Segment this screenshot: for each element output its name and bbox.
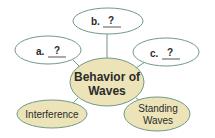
central-node-line2: Waves <box>88 84 126 98</box>
concept-map: b. ? a. ? c. ? Behavior of Waves Interfe… <box>0 0 215 138</box>
node-standing-waves-line2: Waves <box>143 115 173 126</box>
node-c-blank: ? <box>167 47 173 58</box>
node-b: b. ? <box>73 8 143 34</box>
node-interference: Interference <box>17 100 87 128</box>
node-c-ellipse <box>133 38 199 66</box>
node-interference-label: Interference <box>25 109 79 120</box>
connector-interference <box>73 98 78 103</box>
central-node: Behavior of Waves <box>70 58 144 106</box>
node-c-prefix: c. <box>150 48 159 59</box>
central-node-line1: Behavior of <box>74 70 141 84</box>
node-standing-waves-line1: Standing <box>138 103 177 114</box>
connector-c <box>136 62 145 68</box>
node-a: a. ? <box>15 36 81 64</box>
node-c: c. ? <box>133 38 199 66</box>
node-a-blank: ? <box>54 45 60 56</box>
node-a-prefix: a. <box>36 46 45 57</box>
node-b-prefix: b. <box>91 16 100 27</box>
node-a-ellipse <box>15 36 81 64</box>
node-b-blank: ? <box>108 15 114 26</box>
node-standing-waves: Standing Waves <box>124 97 190 131</box>
